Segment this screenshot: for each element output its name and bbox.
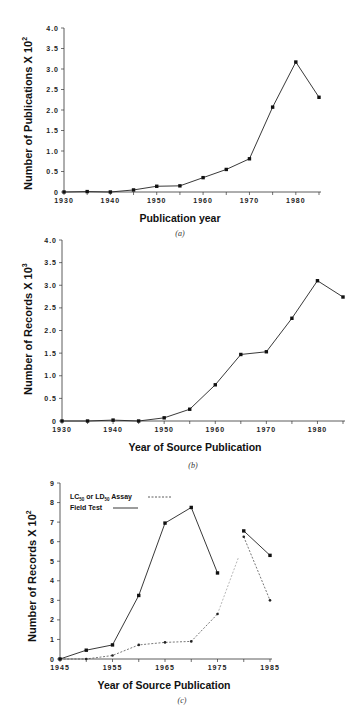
y-tick-label: 5 [50, 558, 55, 565]
data-point [137, 419, 140, 422]
data-point [316, 279, 319, 282]
data-point [58, 657, 61, 660]
data-point [242, 529, 245, 532]
data-point [163, 521, 166, 524]
y-tick-label: 3.0 [44, 282, 57, 289]
x-tick-label: 1980 [286, 197, 306, 204]
chart-a-x-axis-label: Publication year [139, 212, 220, 224]
data-point [214, 383, 217, 386]
chart-c-series [58, 506, 271, 661]
y-tick-label: 0 [54, 189, 59, 196]
y-tick-label: 1.5 [46, 127, 59, 134]
chart-b-y-axis-label: Number of Records X 103 [21, 263, 34, 395]
chart-c-legend: LC50 or LD50 Assay Field Test [70, 493, 171, 511]
data-point [216, 613, 219, 616]
x-tick-label: 1960 [205, 426, 225, 433]
x-tick-label: 1950 [154, 426, 174, 433]
chart-a-publications: 00.51.01.52.02.53.03.54.0193019401950196… [21, 25, 321, 239]
data-point [155, 185, 158, 188]
y-tick-label: 0.5 [44, 395, 57, 402]
y-tick-label: 1.5 [44, 350, 57, 357]
y-tick-label: 2.5 [44, 304, 57, 311]
data-point [137, 644, 140, 647]
data-point [190, 640, 193, 643]
data-point [111, 643, 114, 646]
y-tick-label: 3.0 [46, 66, 59, 73]
y-tick-label: 1 [50, 636, 55, 643]
y-tick-label: 4.0 [46, 25, 59, 32]
data-point [290, 317, 293, 320]
series-line [60, 507, 218, 659]
series-line [244, 537, 270, 601]
data-point [190, 506, 193, 509]
legend-entry-field-test: Field Test [70, 504, 103, 511]
chart-b-caption: (b) [188, 461, 198, 470]
chart-b-series [60, 279, 344, 423]
data-point [162, 416, 165, 419]
data-point [111, 418, 114, 421]
chart-a-y-axis-label: Number of Publications X 102 [21, 37, 34, 190]
data-point [109, 190, 112, 193]
chart-b-x-axis-label: Year of Source Publication [128, 441, 261, 453]
x-tick-label: 1930 [52, 426, 72, 433]
data-point [268, 554, 271, 557]
y-tick-label: 0 [50, 656, 55, 663]
x-tick-label: 1970 [240, 197, 260, 204]
data-point [62, 190, 65, 193]
y-tick-label: 3 [50, 597, 55, 604]
x-tick-label: 1975 [208, 664, 228, 671]
y-tick-label: 2 [50, 616, 55, 623]
chart-c-records-by-type: 012345678919451955196519751985 LC50 or L… [25, 480, 280, 706]
x-tick-label: 1965 [155, 664, 175, 671]
series-line [244, 531, 270, 555]
y-tick-label: 2.5 [46, 86, 59, 93]
chart-b-records: 00.51.01.52.02.53.03.54.0193019401950196… [21, 237, 345, 471]
x-tick-label: 1985 [260, 664, 280, 671]
y-tick-label: 7 [50, 519, 55, 526]
x-tick-label: 1930 [54, 197, 74, 204]
data-point [341, 295, 344, 298]
data-point [248, 157, 251, 160]
data-point [85, 649, 88, 652]
data-point [137, 594, 140, 597]
y-tick-label: 1.0 [46, 148, 59, 155]
x-tick-label: 1945 [50, 664, 70, 671]
y-tick-label: 0 [52, 418, 57, 425]
data-point [86, 419, 89, 422]
y-tick-label: 0.5 [46, 168, 59, 175]
data-point [201, 176, 204, 179]
chart-c-y-axis-label: Number of Records X 102 [25, 510, 38, 642]
series-line [64, 62, 319, 192]
data-point [178, 184, 181, 187]
y-tick-label: 1.0 [44, 372, 57, 379]
y-tick-label: 8 [50, 499, 55, 506]
chart-b-axes: 00.51.01.52.02.53.03.54.0193019401950196… [44, 237, 345, 434]
chart-c-x-axis-label: Year of Source Publication [97, 679, 230, 691]
x-tick-label: 1980 [308, 426, 328, 433]
series-line [60, 614, 218, 659]
y-tick-label: 2.0 [44, 327, 57, 334]
data-point [188, 408, 191, 411]
x-tick-label: 1940 [103, 426, 123, 433]
x-tick-label: 1955 [103, 664, 123, 671]
chart-c-caption: (c) [178, 696, 187, 705]
y-tick-label: 4 [50, 577, 55, 584]
data-point [242, 535, 245, 538]
data-point [85, 658, 88, 661]
series-line [62, 281, 343, 421]
data-point [85, 190, 88, 193]
data-point [132, 188, 135, 191]
chart-a-axes: 00.51.01.52.02.53.03.54.0193019401950196… [46, 25, 321, 205]
y-tick-label: 4.0 [44, 237, 57, 244]
chart-a-series [62, 60, 320, 193]
x-tick-label: 1940 [101, 197, 121, 204]
y-tick-label: 6 [50, 538, 55, 545]
y-tick-label: 3.5 [46, 45, 59, 52]
data-point [239, 353, 242, 356]
data-point [111, 654, 114, 657]
legend-entry-assay: LC50 or LD50 Assay [70, 493, 132, 502]
x-tick-label: 1950 [147, 197, 167, 204]
data-point [265, 350, 268, 353]
y-tick-label: 3.5 [44, 259, 57, 266]
data-point [294, 60, 297, 63]
